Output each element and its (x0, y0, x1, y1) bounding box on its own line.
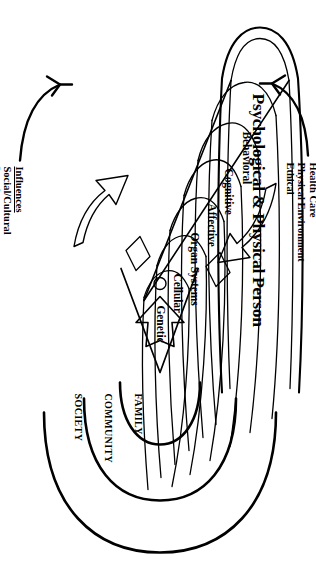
ring-label-society: SOCIETY (73, 393, 84, 441)
layer-label-affective: Affective (206, 203, 218, 246)
diagram-canvas: Psychological & Physical Person Behavior… (0, 0, 316, 579)
stack-tab-lower (126, 236, 150, 270)
page-title: Psychological & Physical Person (248, 93, 269, 326)
layer-label-behavioral: Behavioral (241, 131, 253, 184)
layer-label-cognitive: Cognitive (223, 168, 235, 214)
stack-arrow-bottom (74, 175, 128, 246)
rotated-artwork: Psychological & Physical Person Behavior… (0, 0, 316, 579)
influences-top-item-3: Ethical (284, 162, 296, 261)
ring-label-family: FAMILY (133, 393, 144, 434)
influences-top-item-1: Health Care (307, 162, 316, 261)
layer-label-genetic: Genetic (155, 305, 167, 342)
influences-top-item-2: Physical Environment (296, 162, 308, 261)
layer-label-organ-systems: Organ Systems (189, 232, 201, 305)
ring-label-community: COMMUNITY (103, 393, 114, 463)
layer-label-cellular: Cellular (172, 273, 184, 312)
influences-bottom-item-0: Social/Cultural (2, 166, 14, 239)
influences-bottom-block: Influences Social/Cultural Legal Human S… (0, 166, 25, 239)
influences-top-block: Influences Economic Health Care Physical… (284, 162, 316, 261)
influence-arrow-bottom (20, 76, 72, 160)
influences-bottom-heading: Influences (14, 166, 25, 212)
